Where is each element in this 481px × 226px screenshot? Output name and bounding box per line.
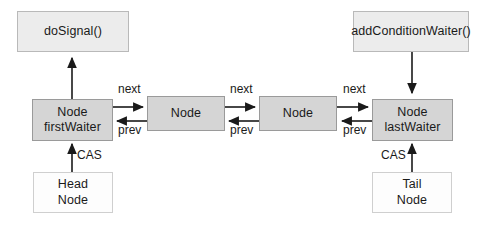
edge-label-prev-1: prev xyxy=(118,124,141,136)
box-node-first-waiter-line2: firstWaiter xyxy=(44,120,101,135)
box-node-last-waiter[interactable]: Node lastWaiter xyxy=(372,99,453,141)
box-tail-node[interactable]: Tail Node xyxy=(372,172,452,213)
box-node-middle-2-line1: Node xyxy=(283,106,313,121)
edge-label-prev-3: prev xyxy=(343,124,366,136)
box-head-node[interactable]: Head Node xyxy=(33,172,113,213)
edge-label-next-1: next xyxy=(118,83,141,95)
box-head-node-line2: Node xyxy=(58,193,88,208)
edge-label-prev-2: prev xyxy=(230,124,253,136)
box-add-condition-waiter-label: addConditionWaiter() xyxy=(351,24,471,39)
box-node-first-waiter[interactable]: Node firstWaiter xyxy=(32,99,113,141)
box-tail-node-line1: Tail xyxy=(402,177,421,192)
box-do-signal[interactable]: doSignal() xyxy=(17,11,129,52)
box-node-middle-1-line1: Node xyxy=(171,106,201,121)
edge-label-cas-tail: CAS xyxy=(381,149,406,161)
diagram-canvas: doSignal() addConditionWaiter() Node fir… xyxy=(0,0,481,226)
box-add-condition-waiter[interactable]: addConditionWaiter() xyxy=(353,11,469,52)
box-head-node-line1: Head xyxy=(58,177,88,192)
box-do-signal-label: doSignal() xyxy=(44,24,102,39)
box-node-first-waiter-line1: Node xyxy=(57,105,87,120)
box-tail-node-line2: Node xyxy=(397,193,427,208)
edge-label-next-2: next xyxy=(230,83,253,95)
box-node-last-waiter-line2: lastWaiter xyxy=(384,120,440,135)
edge-label-next-3: next xyxy=(343,83,366,95)
box-node-middle-1[interactable]: Node xyxy=(147,96,225,131)
box-node-last-waiter-line1: Node xyxy=(397,105,427,120)
edge-label-cas-head: CAS xyxy=(77,149,102,161)
box-node-middle-2[interactable]: Node xyxy=(259,96,337,131)
